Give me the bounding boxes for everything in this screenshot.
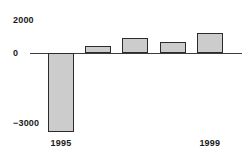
bar-1999 xyxy=(197,33,223,53)
plot-area xyxy=(0,0,252,157)
bar-1995 xyxy=(48,53,74,132)
x-axis-label-1999: 1999 xyxy=(190,138,230,148)
bar-1997 xyxy=(122,38,148,53)
bar-1996 xyxy=(85,46,111,53)
x-axis-label-1995: 1995 xyxy=(41,138,81,148)
bar-chart: 2000 0 −3000 1995 1999 xyxy=(0,0,252,157)
bar-1998 xyxy=(160,42,186,53)
